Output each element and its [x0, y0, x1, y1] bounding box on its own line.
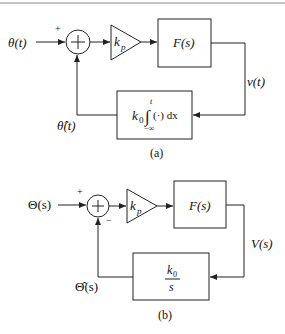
plant-label-a: F(s)	[172, 35, 195, 50]
plus-sign-a: +	[55, 23, 61, 34]
gain-k-b: k	[130, 198, 136, 213]
integrator-box-b: k 0 s	[133, 253, 209, 300]
diagram-a: θ(t) + k p F(s) v(t) k 0 ∫ t −∞ (·	[8, 19, 265, 160]
gain-kp-b: k p	[127, 189, 157, 223]
plus-sign-b: +	[77, 186, 83, 197]
summing-junction-b	[87, 195, 109, 217]
feedback-path-a	[77, 55, 117, 115]
feedback-label-b: Θ̂(s)	[75, 279, 98, 294]
minus-sign-b: −	[106, 215, 112, 226]
integrator-box-a: k 0 ∫ t −∞ (·) dx	[117, 91, 192, 139]
fraction-num-sub-b: 0	[173, 270, 177, 279]
caption-a: (a)	[150, 146, 163, 160]
feedback-path-b	[98, 218, 133, 277]
integrator-k-a: k	[132, 108, 138, 123]
integrand-a: (·) dx	[153, 109, 178, 122]
input-label-a: θ(t)	[8, 35, 27, 50]
feedback-label-a: θ̂(t)	[57, 118, 76, 133]
gain-sub-a: p	[120, 42, 126, 52]
plant-box-b: F(s)	[174, 181, 226, 228]
gain-sub-b: p	[136, 206, 142, 216]
summing-junction-a	[66, 30, 90, 54]
diagram-b: Θ(s) + − k p F(s) V(s) k 0 s	[28, 181, 273, 322]
caption-b: (b)	[158, 308, 172, 322]
gain-kp-a: k p	[111, 25, 141, 60]
block-diagrams: θ(t) + k p F(s) v(t) k 0 ∫ t −∞ (·	[0, 0, 285, 334]
gain-k-a: k	[114, 34, 120, 49]
plant-label-b: F(s)	[188, 198, 211, 213]
output-label-a: v(t)	[247, 74, 265, 89]
integral-lower-a: −∞	[144, 124, 155, 133]
output-label-b: V(s)	[251, 236, 273, 251]
fraction-den-b: s	[169, 280, 174, 294]
input-label-b: Θ(s)	[28, 197, 51, 212]
plant-box-a: F(s)	[158, 19, 211, 67]
